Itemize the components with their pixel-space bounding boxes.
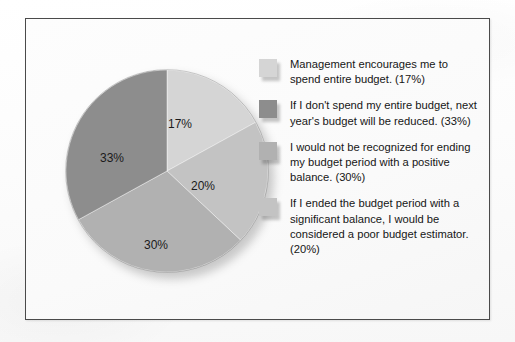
legend-item[interactable]: Management encourages me to spend entire… xyxy=(258,57,480,87)
legend-item-label: I would not be recognized for ending my … xyxy=(284,140,480,186)
legend-item-label: If I don't spend my entire budget, next … xyxy=(284,98,480,128)
pie-chart: 17%20%30%33% xyxy=(40,51,270,291)
pie-slice-label-30: 30% xyxy=(144,238,168,252)
legend-swatch-wrap xyxy=(258,142,284,164)
legend: Management encourages me to spend entire… xyxy=(258,57,480,268)
legend-swatch-wrap xyxy=(258,100,284,122)
legend-color-swatch xyxy=(259,100,277,118)
legend-swatch-wrap xyxy=(258,59,284,81)
pie-slice-label-33: 33% xyxy=(100,151,124,165)
legend-color-swatch xyxy=(259,198,277,216)
legend-item[interactable]: If I ended the budget period with a sign… xyxy=(258,196,480,257)
figure-frame: 17%20%30%33% Management encourages me to… xyxy=(25,18,490,320)
legend-color-swatch xyxy=(259,142,277,160)
pie-slice-label-17: 17% xyxy=(168,117,192,131)
legend-item-label: If I ended the budget period with a sign… xyxy=(284,196,480,257)
legend-item[interactable]: If I don't spend my entire budget, next … xyxy=(258,98,480,128)
legend-swatch-wrap xyxy=(258,198,284,220)
pie-slice-label-20: 20% xyxy=(191,179,215,193)
legend-color-swatch xyxy=(259,59,277,77)
legend-item-label: Management encourages me to spend entire… xyxy=(284,57,480,87)
legend-item[interactable]: I would not be recognized for ending my … xyxy=(258,140,480,186)
